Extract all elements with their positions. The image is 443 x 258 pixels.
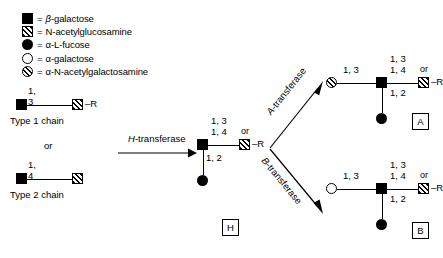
bond-line-vertical (382, 88, 383, 113)
linkage-label-b-head: 1, 3 (343, 171, 359, 182)
terminal-r-label: –R (431, 76, 443, 87)
filled-square-icon (376, 183, 387, 194)
hatched-square-icon (72, 173, 83, 184)
linkage-a-1-4: 1, 4 (390, 64, 406, 75)
legend-equals: = (37, 66, 43, 77)
filled-square-icon (376, 77, 387, 88)
linkage-label-h-top: 1, 3 1, 4 (211, 116, 227, 137)
filled-square-icon (16, 99, 27, 110)
legend-equals: = (37, 13, 43, 24)
linkage-b-1-3: 1, 3 (390, 159, 406, 170)
h-transferase-letter: H (128, 133, 135, 144)
bond-line (337, 189, 376, 190)
hatched-circle-icon (22, 66, 36, 77)
filled-square-icon (197, 139, 208, 150)
bond-line (387, 83, 418, 84)
hatched-circle-icon (326, 77, 337, 88)
legend: = β-galactose = N-acetylglucosamine = α-… (22, 12, 148, 78)
filled-square-icon (22, 13, 36, 24)
legend-item-text: -galactose (51, 13, 94, 24)
linkage-label-b-top: 1, 3 1, 4 (390, 160, 406, 181)
legend-item: = α-L-fucose (22, 38, 148, 51)
filled-square-icon (16, 173, 27, 184)
hatched-square-icon (22, 26, 36, 37)
bond-line-vertical (203, 150, 204, 175)
legend-equals: = (37, 26, 43, 37)
legend-equals: = (37, 39, 43, 50)
h-antigen-badge: H (222, 219, 239, 236)
bond-line-vertical (382, 194, 383, 219)
bond-line (387, 189, 418, 190)
open-circle-icon (326, 183, 337, 194)
legend-equals: = (37, 53, 43, 64)
linkage-h-1-4: 1, 4 (211, 126, 227, 137)
linkage-label-a-fucose: 1, 2 (390, 88, 406, 99)
hatched-square-icon (72, 99, 83, 110)
substrate-or-label: or (44, 140, 52, 151)
linkage-label-a-top: 1, 3 1, 4 (390, 54, 406, 75)
legend-item-label: N-acetylglucosamine (46, 26, 132, 37)
hatched-square-icon (418, 77, 429, 88)
a-or-label: or (420, 64, 428, 74)
legend-item-label: α-N-acetylgalactosamine (46, 66, 148, 77)
legend-item: = N-acetylglucosamine (22, 25, 148, 38)
bond-line (337, 83, 376, 84)
legend-item: = α-N-acetylgalactosamine (22, 65, 148, 78)
filled-circle-icon (376, 113, 387, 124)
filled-circle-icon (376, 219, 387, 230)
type-1-chain-name: Type 1 chain (10, 115, 64, 126)
h-or-label: or (241, 126, 249, 136)
filled-circle-icon (22, 39, 36, 50)
type-2-chain-name: Type 2 chain (10, 189, 64, 200)
a-antigen-badge: A (412, 113, 429, 130)
open-circle-icon (22, 53, 36, 64)
h-transferase-label: H-transferase (128, 133, 186, 144)
linkage-label-h-fucose: 1, 2 (206, 153, 222, 164)
a-transferase-arrow (268, 80, 328, 150)
bond-line (27, 105, 72, 106)
linkage-a-1-3: 1, 3 (390, 53, 406, 64)
filled-circle-icon (197, 175, 208, 186)
b-or-label: or (420, 170, 428, 180)
linkage-label-b-fucose: 1, 2 (390, 194, 406, 205)
legend-item-label: α-galactose (46, 53, 94, 64)
h-transferase-arrow (118, 147, 198, 159)
legend-item-label: α-L-fucose (46, 39, 90, 50)
legend-item: = β-galactose (22, 12, 148, 25)
terminal-r-label: –R (431, 182, 443, 193)
h-transferase-suffix: -transferase (135, 133, 186, 144)
hatched-square-icon (418, 183, 429, 194)
hatched-square-icon (239, 139, 250, 150)
bond-line (208, 145, 239, 146)
terminal-r-label: –R (252, 138, 264, 149)
terminal-r-label: –R (85, 98, 97, 109)
linkage-h-1-3: 1, 3 (211, 115, 227, 126)
legend-item: = α-galactose (22, 52, 148, 65)
linkage-b-1-4: 1, 4 (390, 170, 406, 181)
linkage-label-a-head: 1, 3 (343, 65, 359, 76)
legend-item-label: β-galactose (46, 13, 94, 24)
bond-line (27, 179, 72, 180)
b-antigen-badge: B (412, 222, 429, 239)
